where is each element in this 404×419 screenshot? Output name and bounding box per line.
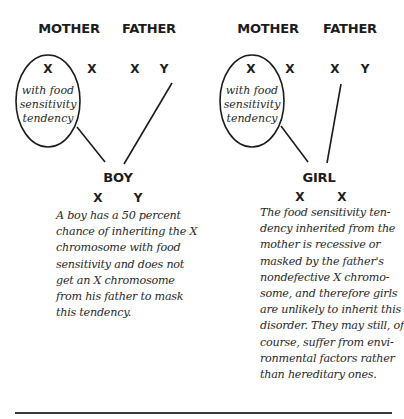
- left-father-label: FATHER: [122, 22, 176, 35]
- boy-description-line: chromosome with food: [56, 240, 197, 256]
- right-father-chromosome-1: X: [330, 63, 339, 75]
- girl-description-line: mother is recessive or: [260, 237, 404, 253]
- right-father-chromosome-2: Y: [361, 63, 370, 75]
- girl-label: GIRL: [302, 171, 335, 184]
- boy-description-line: chance of inheriting the X: [56, 224, 197, 240]
- right-father-label: FATHER: [323, 22, 377, 35]
- left-father-chromosome-2: Y: [160, 63, 169, 75]
- right-father-to-girl-line: [327, 84, 341, 163]
- right-ellipse-annotation: with food sensitivity tendency: [217, 84, 287, 126]
- right-ellipse-line-1: with food: [217, 84, 287, 98]
- girl-chromosome-2: X: [337, 191, 346, 203]
- right-ellipse-line-3: tendency: [217, 112, 287, 126]
- left-father-chromosome-1: X: [130, 63, 139, 75]
- right-mother-chromosome-2: X: [285, 63, 294, 75]
- left-mother-chromosome-1: X: [43, 63, 52, 75]
- boy-description-line: from his father to mask: [56, 289, 197, 305]
- right-mother-chromosome-1: X: [246, 63, 255, 75]
- boy-description-line: this tendency.: [56, 305, 197, 321]
- left-ellipse-annotation: with food sensitivity tendency: [13, 84, 83, 126]
- girl-description-line: are unlikely to inherit this: [260, 302, 404, 318]
- boy-description: A boy has a 50 percent chance of inherit…: [56, 208, 197, 321]
- girl-description-line: course, suffer from envi-: [260, 335, 404, 351]
- left-ellipse-line-2: sensitivity: [13, 98, 83, 112]
- girl-description-line: than hereditary ones.: [260, 367, 404, 383]
- girl-chromosome-1: X: [295, 191, 304, 203]
- girl-description-line: dency inherited from the: [260, 221, 404, 237]
- left-ellipse-line-1: with food: [13, 84, 83, 98]
- left-father-to-boy-line: [124, 83, 172, 164]
- boy-chromosome-1: X: [93, 192, 102, 204]
- right-ellipse-line-2: sensitivity: [217, 98, 287, 112]
- girl-description-line: ronmental factors rather: [260, 351, 404, 367]
- left-mother-to-boy-line: [77, 127, 105, 162]
- boy-chromosome-2: Y: [134, 192, 143, 204]
- boy-description-line: get an X chromosome: [56, 273, 197, 289]
- right-mother-to-girl-line: [281, 126, 308, 162]
- boy-description-line: sensitivity and does not: [56, 257, 197, 273]
- girl-description: The food sensitivity ten- dency inherite…: [260, 205, 404, 383]
- girl-description-line: The food sensitivity ten-: [260, 205, 404, 221]
- left-ellipse-line-3: tendency: [13, 112, 83, 126]
- bottom-divider-rule: [15, 412, 392, 414]
- girl-description-line: nondefective X chromo-: [260, 270, 404, 286]
- boy-description-line: A boy has a 50 percent: [56, 208, 197, 224]
- boy-label: BOY: [103, 171, 132, 184]
- left-mother-chromosome-2: X: [87, 63, 96, 75]
- girl-description-line: some, and therefore girls: [260, 286, 404, 302]
- right-mother-label: MOTHER: [237, 22, 298, 35]
- girl-description-line: disorder. They may still, of: [260, 318, 404, 334]
- left-mother-label: MOTHER: [38, 22, 99, 35]
- girl-description-line: masked by the father's: [260, 254, 404, 270]
